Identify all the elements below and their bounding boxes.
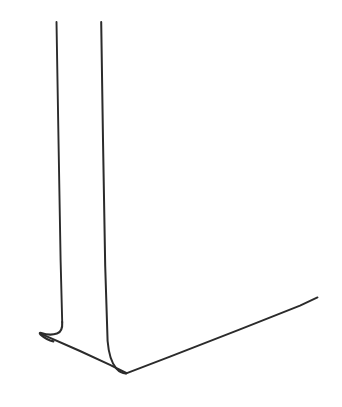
canvas-background <box>0 0 342 407</box>
line-drawing-illustration <box>0 0 342 407</box>
drawing-canvas <box>0 0 342 407</box>
